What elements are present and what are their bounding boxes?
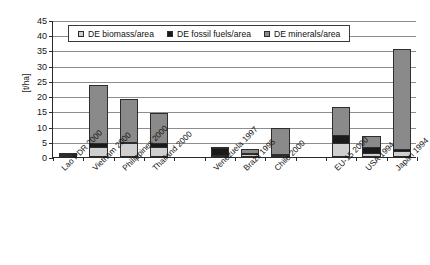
y-tick-mark [49,97,53,98]
y-tick-mark [49,112,53,113]
legend-swatch-icon [264,31,270,37]
y-tick-mark [49,36,53,37]
gridline [53,82,416,83]
y-tick-mark [49,67,53,68]
x-tick-mark [174,157,175,161]
legend-label: DE biomass/area [88,29,154,39]
legend-entry: DE minerals/area [264,29,340,39]
x-tick-mark [205,157,206,161]
x-tick-mark [417,157,418,161]
bar-segment [332,135,350,143]
x-tick-mark [296,157,297,161]
legend-entry: DE biomass/area [78,29,154,39]
legend-entry: DE fossil fuels/area [167,29,251,39]
chart-legend: DE biomass/areaDE fossil fuels/areaDE mi… [68,25,350,42]
y-tick-mark [49,21,53,22]
bar-segment [393,49,411,149]
y-tick-label: 30 [37,62,47,72]
y-tick-label: 45 [37,16,47,26]
y-axis-title: [t/ha] [21,61,31,105]
x-tick-mark [265,157,266,161]
legend-label: DE fossil fuels/area [177,29,251,39]
legend-label: DE minerals/area [274,29,340,39]
gridline [53,67,416,68]
y-tick-mark [49,128,53,129]
y-tick-mark [49,82,53,83]
bar-stack [120,99,138,157]
bar-stack [393,49,411,157]
y-tick-mark [49,51,53,52]
x-tick-mark [144,157,145,161]
bar-segment [332,107,350,136]
y-tick-label: 15 [37,107,47,117]
legend-swatch-icon [167,31,173,37]
x-tick-mark [387,157,388,161]
bar-stack [332,107,350,157]
gridline [53,51,416,52]
x-tick-mark [235,157,236,161]
y-tick-label: 20 [37,92,47,102]
x-tick-mark [356,157,357,161]
y-tick-label: 25 [37,77,47,87]
gridline [53,21,416,22]
x-tick-mark [114,157,115,161]
y-tick-mark [49,143,53,144]
y-tick-label: 10 [37,123,47,133]
legend-swatch-icon [78,31,84,37]
y-tick-label: 0 [42,153,47,163]
x-tick-mark [83,157,84,161]
y-tick-label: 40 [37,31,47,41]
y-tick-label: 5 [42,138,47,148]
y-tick-label: 35 [37,46,47,56]
x-tick-mark [326,157,327,161]
x-tick-mark [53,157,54,161]
